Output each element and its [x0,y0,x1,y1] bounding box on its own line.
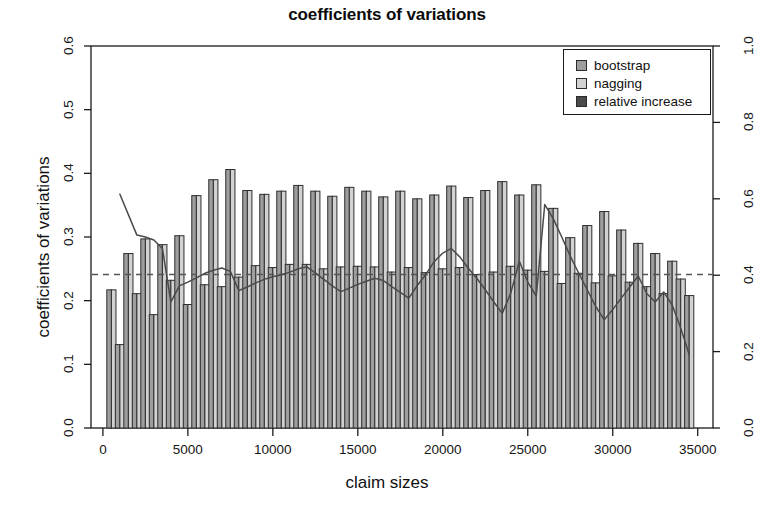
bar-pair-14 [226,170,235,428]
bar-pair-10 [192,196,201,428]
bar-pair-28 [345,187,354,428]
legend-item-bootstrap[interactable]: bootstrap [576,59,650,73]
bar-pair-68 [685,296,694,428]
y-tick-right-label-1: 0.2 [741,328,756,374]
bar-pair-62 [634,243,643,428]
bar-pair-59 [608,276,617,428]
bar-pair-8 [175,236,184,428]
bar-pair-67 [676,279,685,428]
bar-pair-38 [430,195,439,428]
legend-label-2: relative increase [594,95,692,109]
bar-pair-5 [149,315,158,428]
legend-label-1: nagging [594,77,642,91]
bar-pair-22 [294,185,303,428]
bar-pair-57 [591,283,600,428]
y-tick-right-label-5: 1.0 [741,23,756,69]
y-tick-label-1: 0.1 [61,341,76,387]
bar-pair-4 [141,239,150,428]
y-tick-right-label-2: 0.4 [741,252,756,298]
bar-pair-16 [243,191,252,428]
bar-pair-43 [472,275,481,428]
bar-pair-50 [532,185,541,428]
chart-figure: coefficients of variations coefficients … [0,0,774,514]
bar-pair-37 [421,273,430,428]
bar-pair-26 [328,196,337,428]
bar-pair-35 [404,268,413,428]
bar-pair-66 [668,261,677,428]
bar-pair-1 [115,345,124,428]
bar-pair-44 [481,191,490,428]
legend-swatch-icon-2 [576,96,587,107]
bar-pair-15 [234,277,243,428]
y-tick-right-label-3: 0.6 [741,175,756,221]
bar-pair-39 [438,269,447,428]
bar-pair-29 [353,266,362,428]
bar-pair-21 [285,264,294,428]
bar-pair-53 [557,283,566,428]
x-tick-label-2: 10000 [254,442,292,457]
bar-pair-9 [183,304,192,428]
bar-pair-17 [251,266,260,428]
bar-pair-34 [396,191,405,428]
x-tick-label-4: 20000 [424,442,462,457]
bar-pair-13 [217,287,226,428]
bar-pair-49 [523,270,532,428]
bar-pair-55 [574,273,583,428]
bar-pair-20 [277,191,286,428]
bar-pair-33 [387,272,396,428]
bar-pair-18 [260,194,269,428]
bar-pair-60 [617,230,626,428]
x-tick-label-3: 15000 [339,442,377,457]
bar-pair-48 [515,195,524,428]
y-axis-label: coefficients of variations [34,117,54,377]
chart-legend: bootstrapnaggingrelative increase [563,49,711,115]
bar-pair-52 [549,208,558,428]
bar-pair-3 [132,294,141,428]
bar-pair-11 [200,285,209,428]
legend-item-relative-increase[interactable]: relative increase [576,95,692,109]
bar-pair-2 [124,254,133,428]
bar-pair-65 [659,294,668,428]
bar-pair-30 [362,191,371,428]
x-tick-label-7: 35000 [679,442,717,457]
legend-label-0: bootstrap [594,59,650,73]
bar-pair-45 [489,272,498,428]
x-tick-label-0: 0 [99,442,107,457]
bar-pair-31 [370,267,379,428]
bar-pair-32 [379,197,388,428]
x-tick-label-6: 30000 [594,442,632,457]
bar-pair-56 [583,226,592,428]
bar-pair-19 [268,268,277,428]
bar-pair-24 [311,191,320,428]
legend-item-nagging[interactable]: nagging [576,77,642,91]
bar-pair-41 [455,268,464,428]
legend-swatch-icon-0 [576,60,587,71]
y-tick-label-4: 0.4 [61,150,76,196]
bar-pair-23 [302,264,311,428]
x-tick-label-1: 5000 [173,442,203,457]
bar-pair-25 [319,269,328,428]
bar-pair-63 [642,287,651,428]
y-tick-right-label-0: 0.0 [741,405,756,451]
y-tick-label-3: 0.3 [61,214,76,260]
bar-pair-54 [566,238,575,428]
bar-pair-36 [413,199,422,428]
bar-pair-61 [625,282,634,428]
y-tick-right-label-4: 0.8 [741,99,756,145]
y-tick-label-0: 0.0 [61,405,76,451]
bars-layer [107,170,694,428]
x-tick-label-5: 25000 [509,442,547,457]
legend-swatch-icon-1 [576,78,587,89]
bar-pair-40 [447,186,456,428]
y-tick-label-5: 0.5 [61,86,76,132]
bar-pair-64 [651,254,660,428]
y-tick-label-6: 0.6 [61,23,76,69]
bar-pair-42 [464,198,473,428]
x-axis-label: claim sizes [0,473,774,493]
bar-pair-51 [540,271,549,428]
y-tick-label-2: 0.2 [61,277,76,323]
chart-title: coefficients of variations [0,5,774,25]
bar-pair-12 [209,180,218,428]
bar-pair-0 [107,290,116,428]
